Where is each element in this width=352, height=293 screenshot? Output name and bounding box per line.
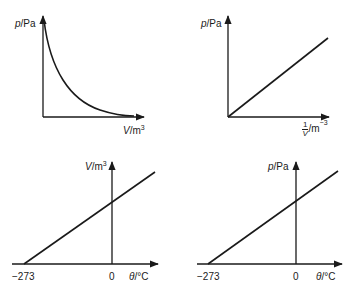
x-unit: °C	[137, 271, 148, 282]
tick-label-minus273: −273	[197, 272, 220, 282]
tick-label-zero: 0	[293, 272, 299, 282]
graphs-canvas	[0, 0, 352, 293]
graph-p-vs-theta	[197, 162, 342, 264]
tick-label-minus273: −273	[12, 272, 35, 282]
x-axis-label: 1V/m−3	[302, 121, 328, 137]
y-unit: Pa	[209, 18, 221, 29]
y-axis-label: p/Pa	[15, 19, 36, 29]
linear-line	[208, 171, 338, 264]
y-var: p	[15, 18, 21, 29]
y-axis-label: V/m3	[85, 162, 107, 172]
x-exp: 3	[141, 124, 145, 131]
x-axis-label: θ/°C	[129, 272, 148, 282]
y-var: p	[268, 161, 274, 172]
x-axis-label: θ/°C	[316, 272, 335, 282]
x-var: V	[123, 125, 130, 136]
denominator: V	[303, 130, 308, 138]
reciprocal-fraction: 1V	[302, 121, 308, 137]
graph-V-vs-theta	[12, 162, 158, 264]
y-exp: 3	[103, 160, 107, 167]
y-axis-label: p/Pa	[201, 19, 222, 29]
x-unit: m	[132, 125, 140, 136]
y-axis-label: p/Pa	[268, 162, 289, 172]
x-unit: m	[311, 123, 319, 134]
graph-p-vs-V	[43, 16, 144, 117]
x-axis-label: V/m3	[123, 126, 145, 136]
linear-line	[228, 38, 328, 117]
y-unit: m	[94, 161, 102, 172]
inverse-curve	[44, 20, 134, 116]
x-var: θ	[316, 271, 321, 282]
y-unit: Pa	[276, 161, 288, 172]
tick-label-zero: 0	[109, 272, 115, 282]
graph-p-vs-1overV	[228, 16, 329, 117]
y-var: V	[85, 161, 92, 172]
x-exp: −3	[320, 119, 328, 126]
x-var: θ	[129, 271, 134, 282]
y-unit: Pa	[23, 18, 35, 29]
linear-line	[24, 172, 155, 264]
x-unit: °C	[324, 271, 335, 282]
y-var: p	[201, 18, 207, 29]
